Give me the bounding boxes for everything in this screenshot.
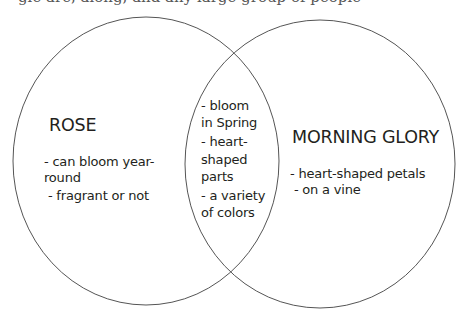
rose-trait: - can bloom year-: [44, 154, 154, 169]
morning-glory-trait: - heart-shaped petals: [290, 166, 425, 181]
shared-trait: - heart-: [201, 134, 248, 149]
rose-title: ROSE: [49, 115, 96, 135]
shared-trait: parts: [201, 169, 233, 184]
morning-glory-title: MORNING GLORY: [292, 127, 439, 147]
rose-trait: round: [44, 170, 81, 185]
morning-glory-trait: - on a vine: [290, 182, 361, 197]
shared-trait: - bloom: [201, 98, 249, 113]
rose-trait: - fragrant or not: [44, 188, 149, 203]
shared-trait: in Spring: [201, 115, 257, 130]
shared-trait: of colors: [201, 205, 255, 220]
shared-trait: shaped: [201, 152, 247, 167]
shared-trait: - a variety: [201, 188, 265, 203]
